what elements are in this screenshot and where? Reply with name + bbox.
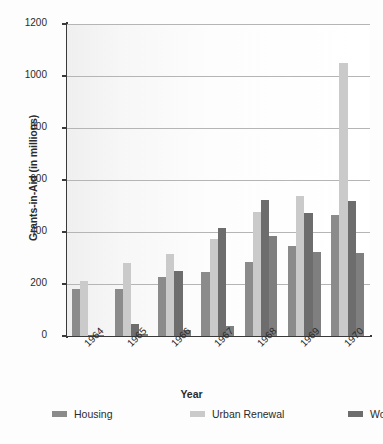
bar-urban-renewal-1970 — [339, 63, 347, 336]
bar-urban-renewal-1967 — [210, 239, 218, 337]
y-tick-label: 1000 — [1, 69, 47, 80]
y-tick-label: 0 — [1, 329, 47, 340]
legend-entry-work-training[interactable]: Work Training — [348, 406, 383, 421]
legend-label: Work Training — [370, 408, 383, 420]
legend-label: Urban Renewal — [212, 408, 284, 420]
legend-swatch-icon — [190, 411, 205, 417]
bar-work-training-1970 — [348, 201, 356, 336]
legend-swatch-icon — [348, 411, 363, 417]
bar-housing-1965 — [115, 289, 123, 336]
legend-label: Housing — [74, 408, 113, 420]
bar-urban-renewal-1966 — [166, 254, 174, 336]
bar-work-training-1968 — [261, 200, 269, 336]
bar-head-start-1970 — [356, 253, 364, 336]
legend-entry-housing[interactable]: Housing — [52, 406, 182, 421]
bar-housing-1969 — [288, 246, 296, 336]
bar-work-training-1969 — [304, 213, 312, 337]
legend-swatch-icon — [52, 411, 67, 417]
y-tick-label: 600 — [1, 173, 47, 184]
bar-chart-figure: Grants-in-Aid (in millions) 020040060080… — [0, 0, 383, 444]
bar-work-training-1966 — [174, 271, 182, 336]
bar-urban-renewal-1965 — [123, 263, 131, 336]
legend-entry-urban-renewal[interactable]: Urban Renewal — [190, 406, 340, 421]
bar-head-start-1969 — [313, 252, 321, 336]
bars-layer — [67, 24, 370, 336]
bar-housing-1970 — [331, 215, 339, 336]
y-tick-label: 1200 — [1, 17, 47, 28]
y-tick-label: 400 — [1, 225, 47, 236]
y-tick-label: 800 — [1, 121, 47, 132]
bar-urban-renewal-1964 — [80, 281, 88, 336]
bar-housing-1964 — [72, 289, 80, 336]
bar-work-training-1967 — [218, 228, 226, 336]
bar-urban-renewal-1969 — [296, 196, 304, 336]
plot-area: 020040060080010001200 — [67, 24, 370, 336]
x-axis-title: Year — [0, 388, 383, 400]
y-tick-label: 200 — [1, 277, 47, 288]
bar-head-start-1968 — [269, 236, 277, 336]
bar-housing-1967 — [201, 272, 209, 336]
chart-legend: HousingUrban RenewalWork TrainingHead St… — [52, 406, 352, 421]
bar-housing-1966 — [158, 277, 166, 336]
bar-housing-1968 — [245, 262, 253, 336]
bar-urban-renewal-1968 — [253, 212, 261, 336]
